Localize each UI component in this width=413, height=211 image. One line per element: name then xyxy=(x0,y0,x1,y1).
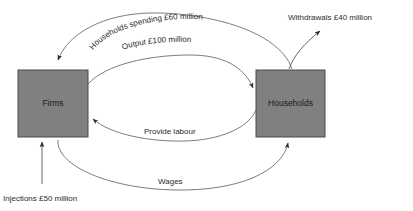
flow-output: Output £100 million xyxy=(88,35,253,88)
provide-labour-arrow xyxy=(93,110,256,141)
circular-flow-diagram: Households spending £60 million Output £… xyxy=(0,0,413,211)
flow-provide-labour: Provide labour xyxy=(93,110,256,141)
flow-injections: Injections £50 million xyxy=(3,142,77,203)
withdrawals-arrow xyxy=(289,31,320,69)
flow-label-wages: Wages xyxy=(158,177,183,186)
flow-label-withdrawals: Withdrawals £40 million xyxy=(288,13,372,22)
node-households[interactable]: Households xyxy=(256,70,325,137)
flow-label-output: Output £100 million xyxy=(121,35,192,52)
flow-label-injections: Injections £50 million xyxy=(3,194,77,203)
firms-label: Firms xyxy=(42,98,63,108)
flow-label-provide-labour: Provide labour xyxy=(144,127,196,136)
flow-withdrawals: Withdrawals £40 million xyxy=(288,13,372,69)
flow-wages: Wages xyxy=(58,140,288,190)
node-firms[interactable]: Firms xyxy=(18,70,88,137)
output-arrow xyxy=(88,55,253,88)
diagram-canvas: Households spending £60 million Output £… xyxy=(0,0,413,211)
households-label: Households xyxy=(268,98,313,108)
